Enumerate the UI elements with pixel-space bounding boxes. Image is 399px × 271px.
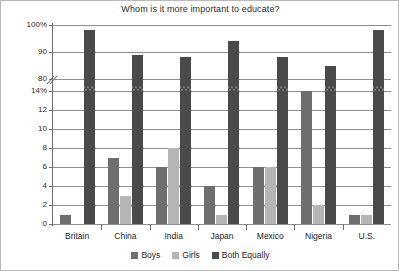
bar-boys-nigeria (301, 91, 312, 224)
y-axis-label: 8 (1, 143, 47, 152)
bar-girls-china (120, 196, 131, 225)
bar-both-equally-china (132, 55, 143, 224)
y-axis-label: 12 (1, 105, 47, 114)
bar-break-mark (325, 85, 336, 92)
bar-boys-japan (204, 186, 215, 224)
bar-boys-china (108, 158, 119, 225)
legend-label: Both Equally (222, 250, 270, 260)
legend-swatch-icon (131, 252, 138, 259)
x-axis-label-india: India (164, 231, 182, 241)
bar-group (294, 25, 342, 224)
bar-both-equally-india (180, 57, 191, 224)
chart-legend: BoysGirlsBoth Equally (1, 250, 399, 260)
bar-group (198, 25, 246, 224)
x-axis-separator (150, 224, 151, 230)
bar-girls-japan (216, 215, 227, 225)
bar-girls-india (168, 148, 179, 224)
bar-both-equally-mexico (277, 57, 288, 224)
y-axis-label: 2 (1, 200, 47, 209)
legend-label: Girls (182, 250, 199, 260)
x-axis-separator (343, 224, 344, 230)
y-axis-label: 14% (1, 86, 47, 95)
bar-both-equally-nigeria (325, 66, 336, 225)
y-axis-label: 6 (1, 162, 47, 171)
chart-title: Whom is it more important to educate? (1, 4, 399, 14)
plot-area (53, 25, 391, 224)
legend-item-both-equally[interactable]: Both Equally (212, 250, 270, 260)
x-axis-label-nigeria: Nigeria (305, 231, 332, 241)
bar-boys-mexico (253, 167, 264, 224)
bar-break-mark (132, 85, 143, 92)
x-axis-separator (198, 224, 199, 230)
bar-break-mark (228, 85, 239, 92)
legend-label: Boys (141, 250, 160, 260)
x-axis-separator (101, 224, 102, 230)
bar-group (150, 25, 198, 224)
bar-group (343, 25, 391, 224)
bar-girls-nigeria (313, 205, 324, 224)
y-axis-label: 0 (1, 219, 47, 228)
bar-girls-us (361, 215, 372, 225)
bar-boys-us (349, 215, 360, 225)
bar-group (246, 25, 294, 224)
bar-boys-india (156, 167, 167, 224)
x-axis-label-mexico: Mexico (257, 231, 284, 241)
legend-swatch-icon (212, 252, 219, 259)
legend-item-girls[interactable]: Girls (172, 250, 199, 260)
y-axis-label: 80 (1, 74, 47, 83)
x-axis-label-britain: Britain (65, 231, 89, 241)
bar-break-mark (84, 85, 95, 92)
bar-both-equally-britain (84, 30, 95, 224)
x-axis-label-us: U.S. (359, 231, 376, 241)
bar-girls-mexico (265, 167, 276, 224)
x-axis-separator (294, 224, 295, 230)
y-axis-label: 4 (1, 181, 47, 190)
legend-item-boys[interactable]: Boys (131, 250, 160, 260)
bar-group (101, 25, 149, 224)
y-axis-label: 10 (1, 124, 47, 133)
chart-container: Whom is it more important to educate? Bo… (0, 0, 399, 271)
y-axis-label: 90 (1, 47, 47, 56)
x-axis-label-japan: Japan (210, 231, 233, 241)
bar-break-mark (180, 85, 191, 92)
bar-boys-britain (60, 215, 71, 225)
y-axis-label: 100% (1, 20, 47, 29)
bar-both-equally-japan (228, 41, 239, 224)
gridline (53, 224, 391, 225)
x-axis-separator (246, 224, 247, 230)
x-axis-label-china: China (114, 231, 136, 241)
bar-both-equally-us (373, 30, 384, 224)
bar-group (53, 25, 101, 224)
bar-break-mark (373, 85, 384, 92)
legend-swatch-icon (172, 252, 179, 259)
bar-break-mark (277, 85, 288, 92)
y-tick-mark (49, 224, 53, 225)
